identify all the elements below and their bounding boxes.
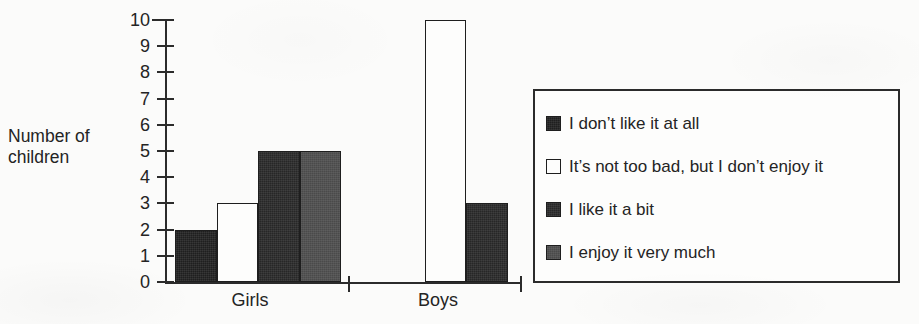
legend-swatch-dislike-icon <box>546 116 561 131</box>
y-axis-tick-label: 10 <box>113 11 150 29</box>
y-axis-tick-label: 0 <box>120 273 150 291</box>
y-axis-tick-label: 4 <box>120 168 150 186</box>
legend-swatch-enjoy-icon <box>546 245 561 260</box>
bar <box>300 151 342 282</box>
legend-item: I enjoy it very much <box>546 231 898 274</box>
x-category-label-girls: Girls <box>200 290 300 310</box>
legend-label: I don’t like it at all <box>569 114 699 133</box>
legend-label: It’s not too bad, but I don’t enjoy it <box>569 157 823 176</box>
bar <box>425 20 467 282</box>
y-axis-label: Number of children <box>8 126 126 168</box>
bar <box>258 151 300 282</box>
legend-label: I enjoy it very much <box>569 243 715 262</box>
y-axis-label-line-2: children <box>8 147 126 168</box>
y-axis-tick-label: 6 <box>120 116 150 134</box>
y-axis-tick-label: 2 <box>120 221 150 239</box>
y-axis-tick-label: 7 <box>120 90 150 108</box>
y-axis-tick-label: 5 <box>120 142 150 160</box>
x-axis-line <box>165 282 522 284</box>
y-axis-tick-label: 8 <box>120 63 150 81</box>
legend-box: I don’t like it at all It’s not too bad,… <box>533 89 900 283</box>
chart-figure: Number of children 012345678910 Girls Bo… <box>0 0 919 324</box>
bar <box>466 203 508 282</box>
bar <box>217 203 259 282</box>
legend-label: I like it a bit <box>569 200 654 219</box>
y-axis-tick-label: 1 <box>120 247 150 265</box>
y-axis-tick-label: 3 <box>120 194 150 212</box>
y-axis-label-line-1: Number of <box>8 126 126 147</box>
legend-item: I don’t like it at all <box>546 102 898 145</box>
legend-swatch-neutral-icon <box>546 159 561 174</box>
bar <box>175 230 217 282</box>
plot-area <box>165 20 522 282</box>
legend-item: I like it a bit <box>546 188 898 231</box>
legend-item: It’s not too bad, but I don’t enjoy it <box>546 145 898 188</box>
x-category-label-boys: Boys <box>388 290 488 310</box>
y-axis-tick-label: 9 <box>120 37 150 55</box>
legend-swatch-like-icon <box>546 202 561 217</box>
